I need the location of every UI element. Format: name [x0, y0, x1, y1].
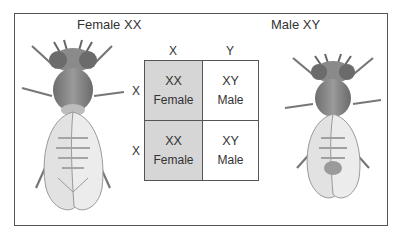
punnett-cell-male: XY Male	[203, 121, 258, 180]
male-parent-label: Male XY	[271, 17, 320, 32]
genotype-label: XY	[222, 72, 239, 91]
fruit-fly-male-icon	[283, 52, 383, 204]
column-allele-1: X	[169, 44, 177, 58]
genotype-label: XX	[165, 132, 182, 151]
punnett-cell-female: XX Female	[145, 61, 203, 121]
genotype-label: XY	[222, 132, 239, 151]
female-parent-label: Female XX	[77, 17, 141, 32]
row-allele-2: X	[132, 144, 140, 158]
fruit-fly-female-icon	[18, 38, 128, 216]
column-allele-2: Y	[226, 44, 234, 58]
genotype-label: XX	[165, 72, 182, 91]
row-allele-1: X	[132, 84, 140, 98]
sex-label: Female	[153, 91, 193, 110]
punnett-cell-male: XY Male	[203, 61, 258, 121]
punnett-square: XX Female XY Male XX Female XY Male	[144, 60, 259, 181]
sex-label: Male	[217, 151, 243, 170]
sex-label: Male	[217, 91, 243, 110]
punnett-cell-female: XX Female	[145, 121, 203, 180]
sex-label: Female	[153, 151, 193, 170]
